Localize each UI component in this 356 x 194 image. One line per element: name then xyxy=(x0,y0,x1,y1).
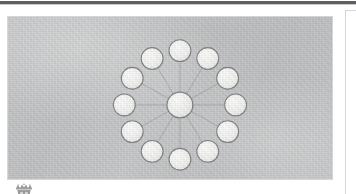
node-circle xyxy=(141,140,163,162)
outer-node xyxy=(113,94,135,117)
outer-node xyxy=(169,148,191,171)
outer-node xyxy=(141,140,163,163)
outer-node xyxy=(121,67,143,90)
node-circle xyxy=(197,140,219,162)
hub-node xyxy=(167,92,193,118)
crest-emblem-icon xyxy=(12,182,36,194)
node-circle xyxy=(169,40,191,62)
hub-and-spoke-network-figure xyxy=(7,16,333,180)
node-circle xyxy=(121,121,143,143)
outer-node xyxy=(217,67,239,90)
spoke-edge xyxy=(142,111,168,126)
outer-node xyxy=(121,121,143,144)
node-circle xyxy=(217,121,239,143)
node-circle xyxy=(169,148,191,170)
spoke-edge xyxy=(142,84,168,99)
main-content-column xyxy=(0,6,340,194)
node-circle xyxy=(113,94,135,116)
outer-node xyxy=(197,140,219,163)
outer-node xyxy=(169,40,191,63)
spoke-edge xyxy=(158,68,173,93)
spoke-edge xyxy=(187,116,202,141)
outer-node xyxy=(141,48,163,71)
spoke-edge xyxy=(187,68,202,93)
node-circle xyxy=(167,92,193,118)
node-circle xyxy=(141,48,163,70)
network-diagram-svg xyxy=(8,17,332,179)
adjacent-page-panel xyxy=(345,10,356,194)
top-divider-shadow xyxy=(0,4,356,5)
crest-emblem-glyph xyxy=(12,182,36,194)
node-circle xyxy=(225,94,247,116)
spoke-edge xyxy=(192,84,218,99)
node-circle xyxy=(197,48,219,70)
outer-node xyxy=(225,94,247,117)
adjacent-page-surface xyxy=(348,13,356,194)
outer-node xyxy=(197,48,219,71)
spoke-edge xyxy=(192,111,218,126)
node-circle xyxy=(121,67,143,89)
node-layer xyxy=(113,40,247,171)
outer-node xyxy=(217,121,239,144)
node-circle xyxy=(217,67,239,89)
spoke-edge xyxy=(158,116,173,141)
